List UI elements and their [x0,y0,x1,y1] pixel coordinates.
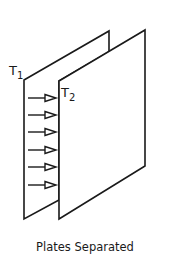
plate1-label: T1 [8,63,23,81]
diagram-caption: Plates Separated [36,240,134,254]
plates-diagram: T1 T2 Plates Separated [0,0,169,259]
